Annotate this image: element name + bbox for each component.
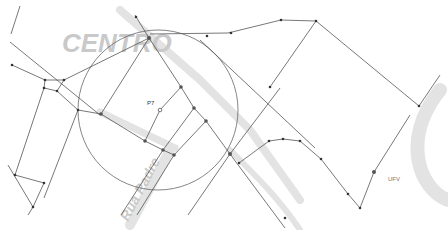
p7-point-marker[interactable] (158, 108, 162, 112)
map-canvas[interactable]: CENTRO Rua Padre (0, 0, 448, 230)
map-svg: CENTRO Rua Padre (0, 0, 448, 230)
ufv-label: UFV (388, 176, 400, 182)
p7-label: P7 (147, 100, 155, 106)
